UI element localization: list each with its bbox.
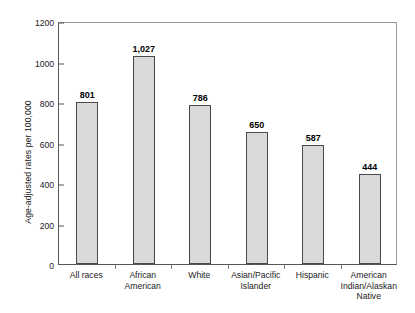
y-axis-tick-mark xyxy=(59,185,64,186)
x-axis-category-label-line: Indian/Alaskan xyxy=(323,281,415,292)
y-axis-tick-label: 1200 xyxy=(35,18,59,28)
bar-value-label: 587 xyxy=(306,133,321,143)
x-axis-category-label-line: American xyxy=(323,270,415,281)
x-axis-category-label-line: Islander xyxy=(210,281,302,292)
category-tick-mark xyxy=(115,265,116,269)
category-tick-mark xyxy=(171,265,172,269)
y-axis-tick-label: 400 xyxy=(40,180,59,190)
bar-value-label: 786 xyxy=(193,93,208,103)
y-axis-tick-mark xyxy=(59,225,64,226)
y-axis-tick-label: 1000 xyxy=(35,59,59,69)
category-tick-mark xyxy=(341,265,342,269)
y-axis-title: Age-adjusted rates per 100,000 xyxy=(23,57,37,267)
bar: 650 xyxy=(246,132,268,264)
y-axis-tick-mark xyxy=(59,104,64,105)
bar-value-label: 1,027 xyxy=(132,44,155,54)
y-axis-tick-label: 600 xyxy=(40,140,59,150)
bar-value-label: 444 xyxy=(362,162,377,172)
bar: 444 xyxy=(359,174,381,264)
x-axis-category-label: AmericanIndian/AlaskanNative xyxy=(323,270,415,302)
plot-area: 0200400600800100012008011,02778665058744… xyxy=(58,22,397,265)
y-axis-tick-mark xyxy=(59,23,64,24)
bar: 1,027 xyxy=(133,56,155,264)
y-axis-tick-label: 800 xyxy=(40,99,59,109)
bar: 587 xyxy=(302,145,324,264)
y-axis-tick-label: 200 xyxy=(40,221,59,231)
bar: 801 xyxy=(76,102,98,264)
y-axis-tick-mark xyxy=(59,63,64,64)
category-tick-mark xyxy=(284,265,285,269)
x-axis-category-label-line: Native xyxy=(323,291,415,302)
category-tick-mark xyxy=(228,265,229,269)
bar-chart: Age-adjusted rates per 100,000 020040060… xyxy=(0,0,415,313)
bar-value-label: 650 xyxy=(249,120,264,130)
y-axis-tick-mark xyxy=(59,144,64,145)
bar: 786 xyxy=(189,105,211,264)
bar-value-label: 801 xyxy=(80,90,95,100)
x-axis-category-label-line: American xyxy=(97,281,189,292)
